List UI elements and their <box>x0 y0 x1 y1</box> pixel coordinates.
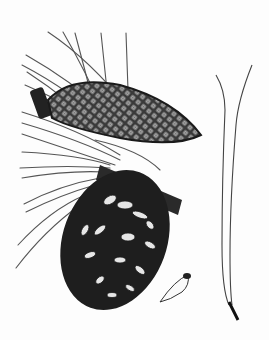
pine-drawing <box>0 0 269 340</box>
seed <box>160 273 191 302</box>
botanical-illustration <box>0 0 269 340</box>
needle-fascicle <box>216 65 252 320</box>
